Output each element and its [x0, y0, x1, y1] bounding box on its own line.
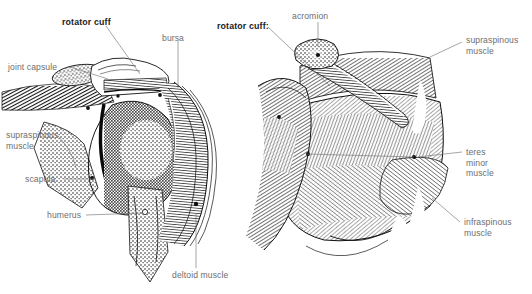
illustration-canvas: rotator cuff bursa joint capsule suprasp… [0, 0, 532, 294]
anatomy-artwork [0, 0, 532, 294]
label-deltoid-muscle: deltoid muscle [172, 270, 228, 281]
label-supraspinous-muscle: supraspinous muscle [6, 130, 58, 151]
right-panel-artwork [240, 22, 462, 258]
label-supraspinous-muscle-right: supraspinous muscle [466, 35, 518, 56]
label-infraspinous-muscle: infraspinous muscle [464, 217, 512, 238]
label-humerus: humerus [47, 210, 81, 221]
label-rotator-cuff: rotator cuff [62, 17, 111, 28]
label-bursa: bursa [162, 33, 184, 44]
label-joint-capsule: joint capsule [8, 62, 57, 73]
label-teres-minor-muscle: teres minor muscle [466, 147, 494, 179]
label-scapula: scapula [25, 174, 55, 185]
label-rotator-cuff-colon: rotator cuff: [217, 21, 269, 32]
label-acromion: acromion [292, 11, 328, 22]
